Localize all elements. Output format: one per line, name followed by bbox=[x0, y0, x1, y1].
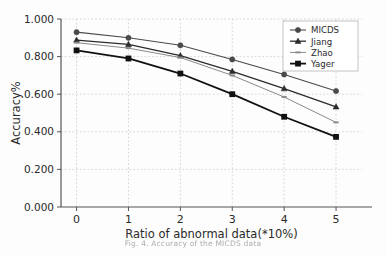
x-tick-label: 0 bbox=[73, 213, 80, 226]
square-marker bbox=[229, 91, 235, 97]
figure-container: 0.0000.2000.4000.6000.8001.000012345Rati… bbox=[0, 0, 386, 257]
accuracy-line-chart: 0.0000.2000.4000.6000.8001.000012345Rati… bbox=[0, 0, 386, 257]
legend-label-micds: MICDS bbox=[311, 25, 339, 35]
y-tick-label: 0.000 bbox=[24, 201, 54, 213]
y-tick-label: 0.400 bbox=[24, 125, 54, 137]
square-marker bbox=[74, 47, 80, 53]
square-marker bbox=[295, 61, 301, 67]
square-marker bbox=[281, 114, 287, 120]
circle-marker bbox=[230, 57, 235, 62]
y-axis-label: Accuracy% bbox=[9, 81, 23, 145]
y-tick-label: 0.800 bbox=[24, 50, 54, 62]
circle-marker bbox=[282, 72, 287, 77]
y-tick-label: 0.200 bbox=[24, 163, 54, 175]
x-tick-label: 5 bbox=[333, 213, 340, 226]
legend-label-zhao: Zhao bbox=[311, 48, 333, 58]
square-marker bbox=[126, 56, 132, 62]
y-tick-label: 0.600 bbox=[24, 88, 54, 100]
circle-marker bbox=[333, 88, 338, 93]
legend-label-yager: Yager bbox=[310, 59, 335, 69]
legend-label-jiang: Jiang bbox=[310, 37, 332, 47]
figure-caption: Fig. 4. Accuracy of the MICDS data bbox=[0, 239, 386, 250]
circle-marker bbox=[178, 43, 183, 48]
x-tick-label: 2 bbox=[177, 213, 184, 226]
circle-marker bbox=[74, 30, 79, 35]
x-tick-label: 1 bbox=[125, 213, 132, 226]
legend: MICDSJiangZhaoYager bbox=[283, 21, 358, 71]
circle-marker bbox=[126, 35, 131, 40]
circle-marker bbox=[295, 27, 300, 32]
y-tick-label: 1.000 bbox=[24, 13, 54, 25]
square-marker bbox=[333, 134, 339, 140]
x-tick-label: 3 bbox=[229, 213, 236, 226]
x-tick-label: 4 bbox=[281, 213, 288, 226]
square-marker bbox=[177, 71, 183, 77]
